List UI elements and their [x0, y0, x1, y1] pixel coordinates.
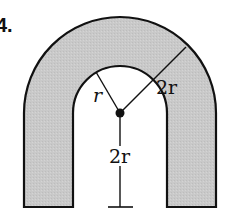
inner-radius-label: r [93, 84, 102, 106]
center-point [116, 109, 125, 118]
outer-radius-label: 2r [156, 76, 177, 98]
u-shape-diagram [0, 0, 228, 222]
height-label: 2r [109, 146, 130, 166]
